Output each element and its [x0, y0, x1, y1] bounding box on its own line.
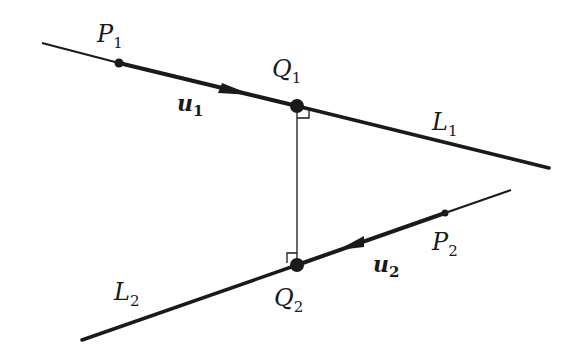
- point-Q1: [290, 99, 304, 113]
- label-P2: P2: [431, 228, 458, 260]
- point-P1: [115, 59, 124, 68]
- label-L2: L2: [113, 278, 139, 310]
- label-Q2: Q2: [274, 284, 303, 316]
- vector-u1-arrowhead: [218, 83, 252, 95]
- label-u1: u1: [177, 90, 203, 120]
- label-P1: P1: [96, 20, 123, 52]
- label-L1: L1: [431, 108, 457, 140]
- skew-lines-diagram: P1 Q1 u1 L1 P2 u2 L2 Q2: [0, 0, 584, 358]
- line-L1-vector-segment: [119, 63, 297, 106]
- label-Q1: Q1: [272, 55, 301, 87]
- line-L2-vector-segment: [297, 213, 445, 265]
- line-L1-main-segment: [297, 106, 549, 168]
- label-u2: u2: [373, 251, 399, 281]
- line-L2-thin-segment: [445, 190, 511, 213]
- point-Q2: [290, 258, 304, 272]
- point-P2: [442, 210, 449, 217]
